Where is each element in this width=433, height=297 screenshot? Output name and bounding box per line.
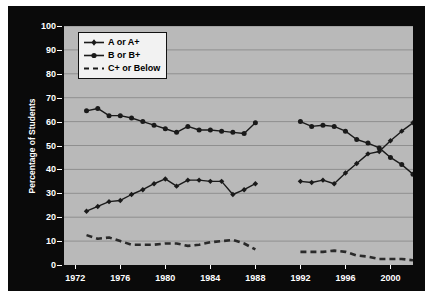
x-tick-label: 1996 — [335, 274, 355, 283]
y-tick-label: 60 — [46, 117, 56, 126]
y-tick-label: 50 — [46, 141, 56, 150]
x-tick-label: 1980 — [155, 274, 175, 283]
legend-item-a: A or A+ — [83, 36, 160, 49]
y-tick-mark — [57, 146, 62, 147]
x-tick-mark — [390, 265, 391, 269]
y-tick-label: 30 — [46, 189, 56, 198]
y-tick-label: 100 — [41, 22, 56, 31]
x-axis: 19721976198019841988199219962000 — [64, 265, 413, 291]
plot-area: A or A+ B or B+ C+ or Below — [64, 26, 413, 265]
x-tick-mark — [120, 265, 121, 269]
y-tick-mark — [57, 74, 62, 75]
y-tick-label: 40 — [46, 165, 56, 174]
x-tick-mark — [75, 265, 76, 269]
legend-symbol-line-dashed — [83, 63, 105, 74]
y-tick-mark — [57, 122, 62, 123]
y-tick-label: 80 — [46, 69, 56, 78]
x-tick-label: 1988 — [245, 274, 265, 283]
y-tick-mark — [57, 169, 62, 170]
y-tick-label: 70 — [46, 93, 56, 102]
legend-label-b: B or B+ — [108, 50, 140, 61]
y-tick-label: 90 — [46, 45, 56, 54]
x-tick-label: 1984 — [200, 274, 220, 283]
x-tick-mark — [300, 265, 301, 269]
x-tick-label: 2000 — [380, 274, 400, 283]
legend-label-c: C+ or Below — [108, 63, 160, 74]
chart-container: Percentage of Students 01020304050607080… — [8, 6, 425, 291]
x-tick-mark — [210, 265, 211, 269]
y-tick-mark — [57, 217, 62, 218]
x-tick-mark — [165, 265, 166, 269]
legend-symbol-line-circle — [83, 50, 105, 61]
y-axis-title: Percentage of Students — [27, 66, 37, 226]
x-tick-label: 1972 — [65, 274, 85, 283]
legend-item-c: C+ or Below — [83, 62, 160, 75]
y-axis: Percentage of Students 01020304050607080… — [8, 6, 64, 285]
y-tick-label: 20 — [46, 213, 56, 222]
x-tick-label: 1976 — [110, 274, 130, 283]
y-tick-mark — [57, 193, 62, 194]
legend-label-a: A or A+ — [108, 37, 140, 48]
y-tick-mark — [57, 26, 62, 27]
y-tick-mark — [57, 50, 62, 51]
chart-legend: A or A+ B or B+ C+ or Below — [78, 32, 167, 79]
y-tick-mark — [57, 241, 62, 242]
y-tick-mark — [57, 265, 62, 266]
x-tick-mark — [255, 265, 256, 269]
legend-item-b: B or B+ — [83, 49, 160, 62]
y-tick-label: 0 — [51, 261, 56, 270]
x-tick-mark — [345, 265, 346, 269]
legend-symbol-line-diamond — [83, 37, 105, 48]
x-tick-label: 1992 — [290, 274, 310, 283]
y-tick-label: 10 — [46, 237, 56, 246]
y-tick-mark — [57, 98, 62, 99]
